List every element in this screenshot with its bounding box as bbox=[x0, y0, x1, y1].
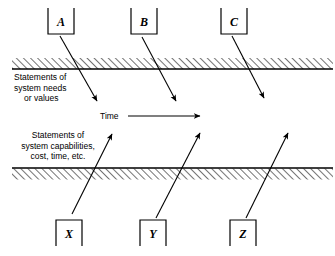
upper-boundary-hatch bbox=[12, 58, 333, 69]
top-box-a-label: A bbox=[56, 15, 65, 29]
lower-caption-line-1: Statements of bbox=[32, 130, 85, 140]
lower-caption: Statements of system capabilities, cost,… bbox=[21, 130, 95, 161]
top-box-c: C bbox=[221, 8, 247, 34]
top-box-b: B bbox=[131, 8, 157, 34]
top-box-c-label: C bbox=[230, 15, 239, 29]
bottom-box-x: X bbox=[56, 220, 82, 246]
diagram-svg: A B C X Y Z Sta bbox=[0, 0, 335, 256]
lower-boundary-hatch bbox=[12, 169, 333, 180]
top-box-b-label: B bbox=[139, 15, 148, 29]
top-box-a: A bbox=[48, 8, 74, 34]
lower-caption-line-2: system capabilities, bbox=[21, 141, 95, 151]
bottom-box-y: Y bbox=[140, 220, 166, 246]
bottom-box-x-label: X bbox=[64, 227, 74, 241]
upper-caption-line-1: Statements of bbox=[14, 72, 67, 82]
bottom-box-z-label: Z bbox=[238, 227, 247, 241]
upper-caption-line-2: system needs bbox=[14, 83, 66, 93]
upper-caption-line-3: or values bbox=[24, 93, 59, 103]
upper-caption: Statements of system needs or values bbox=[14, 72, 67, 103]
bottom-box-z: Z bbox=[230, 220, 256, 246]
lower-boundary-band bbox=[12, 168, 333, 180]
time-axis: Time bbox=[100, 111, 200, 121]
time-axis-label: Time bbox=[100, 111, 119, 121]
upper-boundary-band bbox=[12, 58, 333, 69]
lower-caption-line-3: cost, time, etc. bbox=[31, 151, 86, 161]
bottom-box-y-label: Y bbox=[149, 227, 158, 241]
diagram-canvas: A B C X Y Z Sta bbox=[0, 0, 335, 256]
